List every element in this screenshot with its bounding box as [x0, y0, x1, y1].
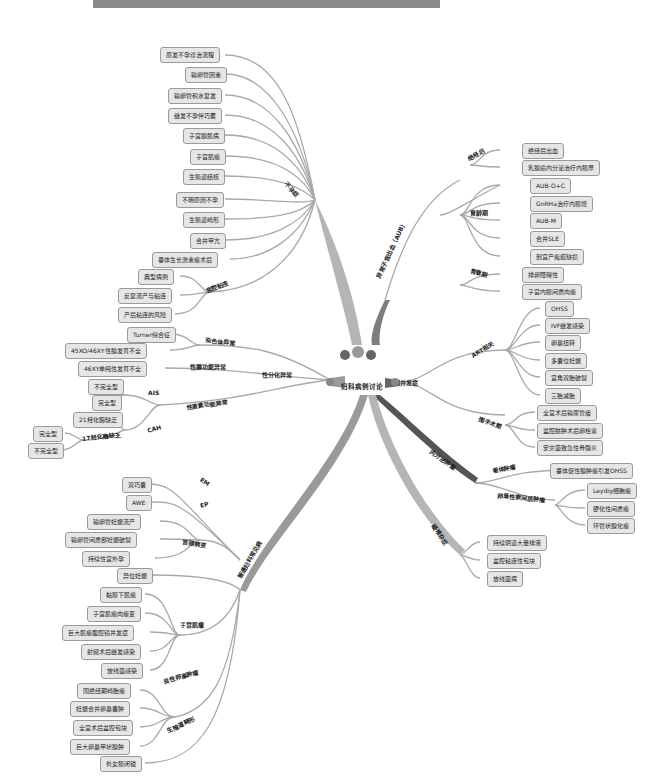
em-item[interactable]: 双巧囊 — [122, 477, 152, 493]
branch-complication-label[interactable]: 并发症 — [400, 378, 418, 387]
surgery-item[interactable]: 盆腔脓肿术后卵栓塞 — [537, 423, 603, 439]
infertility-item[interactable]: 输卵管因素 — [185, 67, 227, 83]
sex-cord-item[interactable]: 硬化性间质瘤 — [587, 501, 635, 517]
postmeno-item[interactable]: 乳腺癌内分泌治疗内膜厚 — [522, 160, 600, 176]
infertility-item[interactable]: 输卵管积水复发 — [168, 88, 222, 104]
postmeno-item[interactable]: 绝经后出血 — [522, 143, 564, 159]
ovarian-item[interactable]: 妊娠合并卵巢囊肿 — [70, 701, 130, 717]
fibroid-item[interactable]: 黏膜下肌瘤 — [100, 587, 142, 603]
art-item[interactable]: 卵巢扭转 — [545, 335, 581, 351]
h17-item[interactable]: 完全型 — [33, 426, 63, 442]
infertility-item[interactable]: 子宫肌瘤 — [190, 149, 226, 165]
infertility-item[interactable]: 子宫腺肌病 — [183, 128, 225, 144]
branch-dsd-label[interactable]: 性分化异常 — [262, 370, 292, 379]
art-item[interactable]: OHSS — [545, 301, 574, 317]
fibroid-label[interactable]: 子宫肌瘤 — [180, 620, 204, 629]
adolescent-item[interactable]: 子宫内膜间质肉瘤 — [522, 284, 582, 300]
ep-item[interactable]: 持续性宫外孕 — [82, 551, 130, 567]
h17-item[interactable]: 不完全型 — [28, 443, 64, 459]
art-item[interactable]: IVF继发感染 — [545, 318, 590, 334]
em-item[interactable]: AWE — [126, 495, 152, 511]
art-item[interactable]: 多囊位妊娠 — [545, 353, 587, 369]
pituitary-item[interactable]: 垂体促性腺肿瘤引发OHSS — [550, 463, 633, 479]
center-topic[interactable]: 妇科病例讨论 — [341, 381, 383, 391]
infertility-item[interactable]: 合并甲亢 — [190, 233, 226, 249]
rare-item[interactable]: 盆腔粘连性包块 — [487, 553, 541, 569]
sex-cord-item[interactable]: Leydig细胞瘤 — [587, 483, 637, 499]
fibroid-item[interactable]: 放线菌感染 — [101, 663, 143, 679]
reproductive-item[interactable]: AUB-M — [530, 213, 562, 229]
fibroid-item[interactable]: 子宫肌瘤肉瘤变 — [87, 606, 141, 622]
cah-item[interactable]: 21羟化酶缺乏 — [73, 412, 123, 428]
art-item[interactable]: 宫角双胎破裂 — [545, 370, 593, 386]
adhesion-item[interactable]: 产后粘连的风险 — [118, 307, 172, 323]
chromosome-item[interactable]: Turner综合征 — [127, 327, 176, 343]
rare-item[interactable]: 放线菌病 — [487, 571, 523, 587]
reproductive-item[interactable]: 合并SLE — [530, 231, 565, 247]
ovarian-item[interactable]: 全宫术后盆腔包块 — [73, 720, 133, 736]
ais-item[interactable]: 不完全型 — [88, 379, 124, 395]
ais-item[interactable]: 完全型 — [92, 395, 122, 411]
gonad-item[interactable]: 46XY单纯性发育不全 — [78, 361, 147, 377]
infertility-item[interactable]: 生殖道畸形 — [183, 212, 225, 228]
ep-item[interactable]: 输卵管妊娠流产 — [87, 514, 141, 530]
adhesion-item[interactable]: 反复流产与粘连 — [118, 288, 172, 304]
infertility-item[interactable]: 不明原因不孕 — [176, 192, 224, 208]
infertility-item[interactable]: 生殖道结核 — [183, 169, 225, 185]
art-item[interactable]: 三胎减胎 — [545, 388, 581, 404]
ovarian-item[interactable]: 围绝经期畸胎瘤 — [77, 683, 131, 699]
surgery-item[interactable]: 全宫术后输尿管瘘 — [537, 405, 597, 421]
reproductive-item[interactable]: GnRHa治疗内膜增 — [530, 196, 593, 212]
cervix-item[interactable]: 异位妊娠 — [117, 568, 153, 584]
chromosome-item[interactable]: 45XO/46XY性腺发育不全 — [65, 343, 147, 359]
reproductive-item[interactable]: AUB-O+C — [530, 178, 571, 194]
reproductive-label[interactable]: 育龄期 — [470, 208, 488, 217]
malformation-item[interactable]: 处女膜闭锁 — [100, 756, 142, 772]
infertility-item[interactable]: 垂体生长激素瘤术后 — [152, 252, 218, 268]
surgery-item[interactable]: 安灾菌致急性骨髓炎 — [537, 440, 603, 456]
adolescent-item[interactable]: 排卵障碍性 — [522, 267, 564, 283]
ovarian-item[interactable]: 巨大卵巢甲状腺肿 — [70, 739, 130, 755]
infertility-item[interactable]: 原发不孕诊治流程 — [160, 47, 220, 63]
ais-label[interactable]: AIS — [148, 389, 159, 396]
rare-item[interactable]: 持续阴道大量排液 — [487, 535, 547, 551]
sex-cord-item[interactable]: 环管状腺化瘤 — [587, 518, 635, 534]
infertility-item[interactable]: 继发不孕伴巧蓄 — [168, 108, 222, 124]
adhesion-item[interactable]: 典型病例 — [138, 269, 174, 285]
gonad-label[interactable]: 性腺功能异常 — [190, 362, 226, 371]
fibroid-item[interactable]: 巨大肌瘤腹腔镜并发症 — [62, 625, 134, 641]
fibroid-item[interactable]: 射频术后继发感染 — [81, 644, 141, 660]
reproductive-item[interactable]: 剖宫产瘢痕缺损 — [530, 249, 584, 265]
ep-item[interactable]: 输卵管间质部妊娠破裂 — [65, 532, 137, 548]
